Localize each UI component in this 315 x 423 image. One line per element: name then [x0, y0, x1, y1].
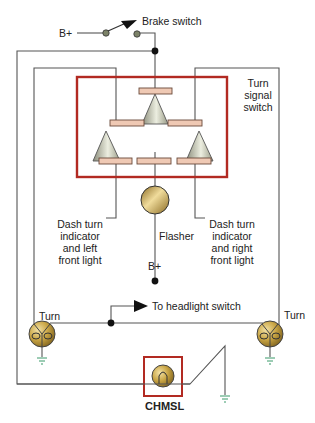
junction-dot: [108, 320, 115, 327]
flasher: [141, 186, 169, 214]
right-rear-turn-lamp: [257, 321, 283, 347]
chmsl-label: CHMSL: [145, 400, 184, 412]
b-plus-label: B+: [59, 27, 72, 39]
turn-signal-wiring-diagram: [0, 0, 315, 423]
to-headlight-label: To headlight switch: [152, 300, 241, 312]
arrow-icon: [134, 300, 148, 312]
turn-right-label: Turn: [284, 309, 305, 321]
flasher-label: Flasher: [159, 230, 194, 242]
left-rear-turn-lamp: [29, 321, 55, 347]
junction-dot: [152, 48, 159, 55]
junction-dot: [152, 278, 159, 285]
dash-left-label: Dash turn indicator and left front light: [55, 218, 105, 266]
chmsl-lamp: [17, 357, 190, 396]
b-plus-bottom-label: B+: [148, 260, 161, 272]
brake-switch-label: Brake switch: [142, 15, 202, 27]
ground-icon: [265, 358, 275, 364]
ground-icon: [220, 396, 230, 402]
ground-icon: [37, 358, 47, 364]
turn-left-label: Turn: [39, 310, 60, 322]
turn-signal-switch-label: Turn signal switch: [238, 77, 278, 113]
dash-right-label: Dash turn indicator and right front ligh…: [207, 218, 257, 266]
brake-switch: [103, 20, 140, 37]
